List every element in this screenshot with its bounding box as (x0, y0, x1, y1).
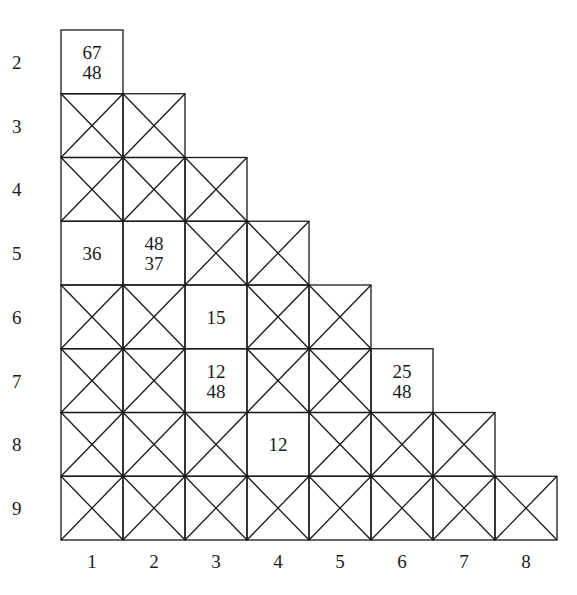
row-label: 4 (12, 179, 22, 200)
cell-value: 48 (393, 381, 412, 402)
row-label: 8 (12, 434, 22, 455)
grid-cell (371, 413, 433, 477)
grid-cell (185, 158, 247, 222)
grid-cell (185, 476, 247, 540)
grid-cell (309, 349, 371, 413)
cell-value: 67 (83, 42, 102, 63)
column-label: 6 (397, 551, 407, 572)
cell-value: 12 (269, 434, 288, 455)
grid-cell (433, 476, 495, 540)
column-label: 7 (459, 551, 469, 572)
grid-cell (309, 413, 371, 477)
column-label: 3 (211, 551, 221, 572)
grid-cell (61, 349, 123, 413)
cell-value: 36 (83, 243, 102, 264)
triangular-grid-diagram: 6748364837151248254812 23456789 12345678 (0, 0, 577, 595)
grid-cell (61, 158, 123, 222)
column-label: 8 (521, 551, 531, 572)
grid-cell (123, 476, 185, 540)
grid-cell (247, 285, 309, 349)
grid-cell (61, 94, 123, 158)
grid-cell (123, 158, 185, 222)
grid-cell (247, 349, 309, 413)
row-labels: 23456789 (12, 52, 22, 519)
grid-cell (123, 94, 185, 158)
grid-cell (309, 285, 371, 349)
grid-cell (433, 413, 495, 477)
row-label: 6 (12, 307, 22, 328)
grid-cell (123, 349, 185, 413)
cell-value: 48 (207, 381, 226, 402)
grid-cell (123, 285, 185, 349)
grid-cell (495, 476, 557, 540)
row-label: 7 (12, 371, 22, 392)
grid-cell (61, 413, 123, 477)
grid-cell (185, 413, 247, 477)
grid-cell (61, 476, 123, 540)
row-label: 5 (12, 243, 22, 264)
grid-cell (247, 221, 309, 285)
row-label: 3 (12, 116, 22, 137)
column-label: 4 (273, 551, 283, 572)
column-label: 5 (335, 551, 345, 572)
grid-cell (61, 285, 123, 349)
cell-value: 25 (393, 361, 412, 382)
grid-cell (123, 413, 185, 477)
cell-value: 48 (83, 62, 102, 83)
grid-cell (185, 221, 247, 285)
column-label: 2 (149, 551, 159, 572)
row-label: 9 (12, 498, 22, 519)
grid-lines (61, 30, 557, 540)
grid-cell (309, 476, 371, 540)
grid-cell (247, 476, 309, 540)
cell-value: 48 (145, 233, 164, 254)
grid-cell (371, 476, 433, 540)
cell-value: 37 (145, 253, 164, 274)
cell-value: 12 (207, 361, 226, 382)
column-label: 1 (87, 551, 97, 572)
column-labels: 12345678 (87, 551, 531, 572)
cell-value: 15 (207, 307, 226, 328)
row-label: 2 (12, 52, 22, 73)
